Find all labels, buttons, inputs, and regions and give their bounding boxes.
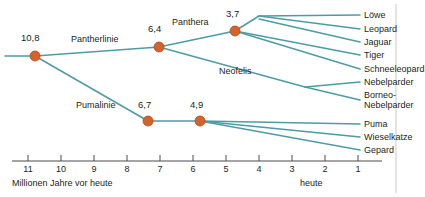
node-label-4-9: 4,9 [190,100,203,110]
axis-label-11: 11 [19,164,37,174]
axis-label-5: 5 [217,164,235,174]
branch-loewe [259,15,360,16]
branch-borneo-nebelparder [305,87,360,100]
species-label-schneeleopard: Schneeleopard [364,64,425,74]
branch-pumalinie [35,56,148,121]
species-label-puma: Puma [364,119,388,129]
lineage-label-pumalinie: Pumalinie [76,100,116,110]
node-label-3-7: 3,7 [226,9,239,19]
species-label-loewe: Löwe [364,10,386,20]
lineage-label-pantherlinie: Pantherlinie [71,34,119,44]
axis-label-7: 7 [151,164,169,174]
axis-label-4: 4 [250,164,268,174]
species-label-borneo-line1: Borneo- [364,90,396,100]
species-label-borneo-line2: Nebelparder [364,100,414,110]
tree-branches [5,15,360,150]
time-axis [12,155,382,161]
axis-label-1: 1 [349,164,367,174]
branch-tiger [235,31,360,55]
node-label-10-8: 10,8 [21,33,40,43]
branch-gepard [200,121,360,150]
axis-caption-left: Millionen Jahre vor heute [12,178,113,188]
axis-label-9: 9 [85,164,103,174]
axis-label-6: 6 [184,164,202,174]
axis-label-8: 8 [118,164,136,174]
branch-to-panthera [159,31,235,47]
species-label-tiger: Tiger [364,50,384,60]
node-6-4[interactable] [154,42,164,52]
tree-nodes [30,26,240,126]
axis-label-3: 3 [283,164,301,174]
species-label-wieselkatze: Wieselkatze [364,132,413,142]
branch-pantherlinie [35,47,159,56]
node-6-7[interactable] [143,116,153,126]
species-label-gepard: Gepard [364,145,394,155]
axis-caption-right: heute [300,178,323,188]
branch-schneeleopard [235,31,360,69]
species-label-leopard: Leopard [364,24,397,34]
branch-nebelparder [305,82,360,87]
node-label-6-4: 6,4 [148,24,161,34]
species-label-jaguar: Jaguar [364,37,392,47]
lineage-label-neofelis: Neofelis [219,66,252,76]
node-10-8[interactable] [30,51,40,61]
species-label-nebelparder: Nebelparder [364,77,414,87]
node-label-6-7: 6,7 [138,100,151,110]
axis-label-10: 10 [52,164,70,174]
lineage-label-panthera: Panthera [172,17,209,27]
axis-label-2: 2 [316,164,334,174]
node-4-9[interactable] [195,116,205,126]
node-3-7[interactable] [230,26,240,36]
